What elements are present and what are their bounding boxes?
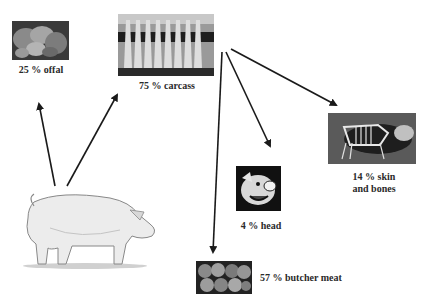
figure-caption-clipped <box>86 300 326 308</box>
skin-bones-label-line2: and bones <box>338 183 410 195</box>
carcass-image <box>118 14 214 76</box>
offal-image <box>12 21 69 60</box>
arrow-pig-to-carcass <box>67 95 117 186</box>
arrow-pig-to-offal <box>39 104 55 186</box>
skin-bones-label-line1: 14 % skin <box>338 171 410 183</box>
live-pig-image <box>10 188 160 272</box>
butcher-meat-label: 57 % butcher meat <box>260 272 370 284</box>
skin-bones-label: 14 % skin and bones <box>338 171 410 195</box>
carcass-label: 75 % carcass <box>132 80 202 92</box>
head-label: 4 % head <box>236 220 286 232</box>
skin-bones-image <box>328 113 416 164</box>
head-image <box>236 166 281 211</box>
offal-label: 25 % offal <box>10 64 72 76</box>
arrow-carcass-to-butcher-meat <box>213 52 222 252</box>
butcher-meat-image <box>196 261 252 294</box>
